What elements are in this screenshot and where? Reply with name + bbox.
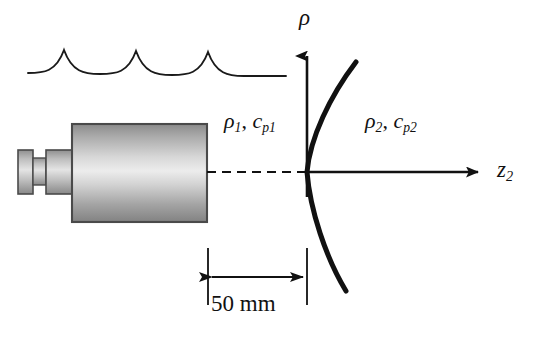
z2-axis-label: z2 [497, 158, 513, 183]
rho-axis-label: ρ [299, 6, 310, 29]
transducer-neck [33, 158, 46, 185]
wavefront-arcs [28, 50, 286, 76]
transducer-cap [18, 150, 33, 194]
medium-1-properties-label: ρ1, cp1 [224, 110, 276, 134]
curved-interface [307, 62, 356, 291]
acoustic-interface-diagram: ρ z2 ρ1, cp1 ρ2, cp2 50 mm [0, 0, 544, 341]
medium-2-properties-label: ρ2, cp2 [365, 110, 417, 134]
transducer-body [72, 124, 207, 222]
dimension-label-50mm: 50 mm [211, 292, 276, 315]
diagram-canvas [0, 0, 544, 341]
transducer-collar [46, 150, 73, 194]
ultrasonic-transducer [18, 124, 207, 222]
